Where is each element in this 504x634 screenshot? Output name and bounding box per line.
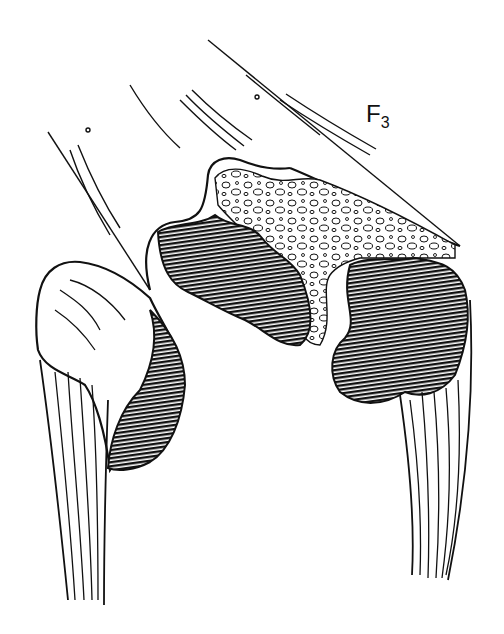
figure-label-sub: 3 bbox=[381, 114, 390, 131]
figure-label: F3 bbox=[366, 100, 390, 132]
hatched-mass-right bbox=[332, 258, 468, 403]
lower-left-bone bbox=[36, 262, 185, 605]
bone-illustration bbox=[0, 0, 504, 634]
figure-label-main: F bbox=[366, 100, 381, 127]
